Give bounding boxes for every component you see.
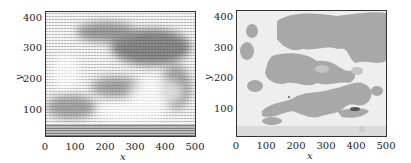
right-x-tick-100: 100 [254, 141, 278, 151]
contour-graphic [237, 11, 386, 136]
right-y-tick-100: 100 [211, 104, 233, 114]
right-y-tick-300: 300 [211, 43, 233, 53]
vector-field-graphic [46, 12, 195, 136]
right-x-tick-400: 400 [344, 141, 368, 151]
left-x-tick-400: 400 [153, 142, 177, 152]
left-x-tick-0: 0 [33, 142, 57, 152]
right-chart-panel: y 400 300 200 100 [205, 0, 411, 163]
right-y-tick-400: 400 [211, 12, 233, 22]
right-contour-plot [236, 10, 387, 137]
right-x-tick-0: 0 [224, 141, 248, 151]
right-y-tick-200: 200 [211, 73, 233, 83]
left-x-tick-300: 300 [123, 142, 147, 152]
left-chart-panel: y 400 300 200 100 [0, 0, 205, 163]
right-x-tick-500: 500 [374, 141, 398, 151]
left-y-tick-100: 100 [20, 105, 42, 115]
right-x-tick-300: 300 [314, 141, 338, 151]
left-y-tick-200: 200 [20, 74, 42, 84]
left-y-tick-300: 300 [20, 43, 42, 53]
right-x-axis-label: x [307, 150, 313, 161]
left-x-axis-label: x [120, 151, 126, 162]
left-x-tick-100: 100 [63, 142, 87, 152]
right-x-tick-200: 200 [284, 141, 308, 151]
left-vector-field-plot [45, 11, 196, 137]
left-y-tick-400: 400 [20, 13, 42, 23]
left-x-tick-200: 200 [93, 142, 117, 152]
left-x-tick-500: 500 [183, 142, 207, 152]
